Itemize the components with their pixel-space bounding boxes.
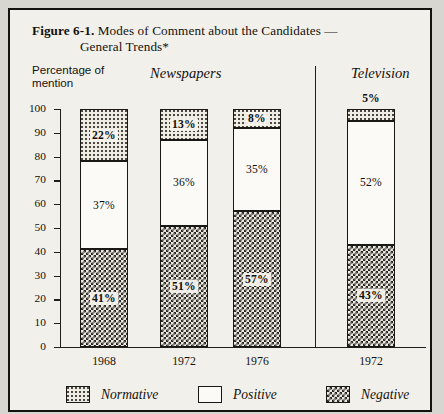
y-tick-mark: [54, 323, 61, 324]
legend-label-positive: Positive: [233, 387, 277, 403]
segment-positive[interactable]: 35%: [233, 128, 281, 211]
x-label-1972-newspapers: 1972: [160, 354, 208, 369]
legend-label-normative: Normative: [101, 387, 158, 403]
figure-frame: Figure 6-1. Modes of Comment about the C…: [8, 8, 432, 412]
y-tick-label: 60: [12, 197, 46, 209]
segment-label-positive: 52%: [360, 176, 382, 189]
segment-label-positive: 36%: [173, 176, 195, 189]
segment-label-normative-outside: 5%: [347, 92, 395, 105]
segment-label-normative: 13%: [170, 118, 198, 131]
y-tick-label: 90: [12, 126, 46, 138]
legend-swatch-normative: [66, 386, 90, 403]
segment-label-negative: 51%: [170, 280, 198, 293]
segment-negative[interactable]: 57%: [233, 211, 281, 347]
y-tick-label: 80: [12, 150, 46, 162]
segment-negative[interactable]: 41%: [80, 249, 128, 347]
segment-positive[interactable]: 52%: [347, 121, 395, 245]
y-tick-label: 40: [12, 245, 46, 257]
segment-label-negative: 57%: [243, 273, 271, 286]
y-tick-mark: [54, 299, 61, 300]
y-tick-mark: [54, 347, 61, 348]
y-tick-mark: [54, 133, 61, 134]
segment-negative[interactable]: 43%: [347, 245, 395, 347]
segment-label-normative: 8%: [246, 112, 268, 125]
y-tick-label: 10: [12, 316, 46, 328]
y-tick-mark: [54, 252, 61, 253]
segment-normative[interactable]: 13%: [160, 109, 208, 140]
y-tick-mark: [54, 204, 61, 205]
y-tick-label: 20: [12, 292, 46, 304]
x-label-1968-newspapers: 1968: [80, 354, 128, 369]
y-tick-label: 0: [12, 340, 46, 352]
y-tick-mark: [54, 157, 61, 158]
segment-label-positive: 35%: [246, 163, 268, 176]
y-tick-label: 50: [12, 221, 46, 233]
legend-item-normative[interactable]: Normative: [66, 386, 158, 403]
plot-area: 100 90 80 70 60 50 40 30 20 10 0 22% 37%: [10, 10, 432, 412]
segment-negative[interactable]: 51%: [160, 226, 208, 347]
segment-label-negative: 41%: [90, 292, 118, 305]
legend-item-negative[interactable]: Negative: [326, 386, 409, 403]
legend: Normative Positive Negative: [10, 386, 432, 412]
legend-label-negative: Negative: [361, 387, 409, 403]
segment-positive[interactable]: 36%: [160, 140, 208, 226]
segment-normative[interactable]: 22%: [80, 109, 128, 161]
y-tick-label: 100: [12, 102, 46, 114]
x-axis-line: [60, 347, 426, 348]
segment-normative[interactable]: 8%: [233, 109, 281, 128]
x-label-1972-television: 1972: [347, 354, 395, 369]
legend-swatch-negative: [326, 386, 350, 403]
segment-positive[interactable]: 37%: [80, 161, 128, 249]
segment-label-positive: 37%: [93, 199, 115, 212]
y-tick-mark: [54, 180, 61, 181]
segment-label-normative: 22%: [90, 129, 118, 142]
segment-normative[interactable]: [347, 109, 395, 121]
y-tick-label: 30: [12, 269, 46, 281]
segment-label-negative: 43%: [357, 289, 385, 302]
y-tick-label: 70: [12, 173, 46, 185]
x-label-1976-newspapers: 1976: [233, 354, 281, 369]
legend-swatch-positive: [198, 386, 222, 403]
y-tick-mark: [54, 109, 61, 110]
y-tick-mark: [54, 228, 61, 229]
legend-item-positive[interactable]: Positive: [198, 386, 277, 403]
y-tick-mark: [54, 276, 61, 277]
